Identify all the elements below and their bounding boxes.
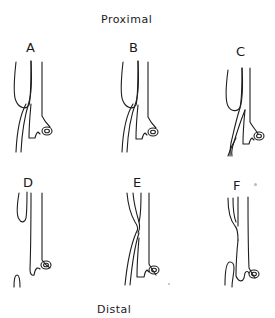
- panel-a-drawing: [14, 61, 52, 152]
- panel-b-drawing: [121, 61, 158, 152]
- anatomical-diagram: [0, 0, 275, 318]
- scan-artifact-dot: [168, 283, 170, 285]
- panel-d-drawing: [14, 192, 51, 287]
- panel-f-drawing: [225, 197, 259, 287]
- scan-artifact-dot: [254, 183, 257, 186]
- panel-c-drawing: [226, 68, 264, 156]
- panel-e-drawing: [125, 193, 159, 285]
